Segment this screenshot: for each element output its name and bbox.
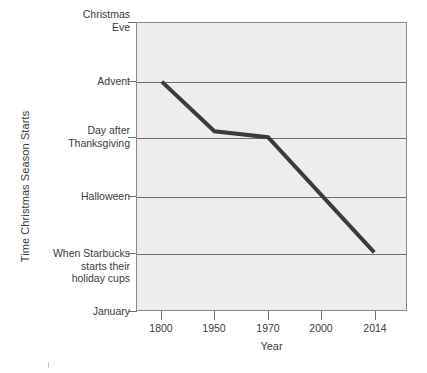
x-axis-tick-label: 1970 xyxy=(238,322,298,334)
scan-artifact-speck xyxy=(48,362,49,368)
y-axis-tick-label: Advent xyxy=(10,75,130,88)
x-axis-tick-label: 1950 xyxy=(184,322,244,334)
series-line-svg xyxy=(137,23,406,310)
y-axis-tick-label: January xyxy=(10,305,130,318)
plot-area xyxy=(136,22,407,311)
x-axis-tick-label: 2000 xyxy=(291,322,351,334)
series-line xyxy=(162,82,374,253)
y-axis-tick-label: Halloween xyxy=(10,190,130,203)
x-axis-tick-mark xyxy=(214,311,215,320)
x-axis-tick-mark xyxy=(161,311,162,320)
x-axis-tick-mark xyxy=(268,311,269,320)
y-axis-tick-label: Christmas Eve xyxy=(10,8,130,33)
y-axis-tick-mark xyxy=(128,311,137,312)
x-axis-tick-label: 2014 xyxy=(345,322,405,334)
x-axis-tick-label: 1800 xyxy=(131,322,191,334)
x-axis-title: Year xyxy=(136,340,407,352)
x-axis-tick-mark xyxy=(321,311,322,320)
line-chart: Time Christmas Season Starts Christmas E… xyxy=(0,0,427,373)
y-axis-tick-label: Day after Thanksgiving xyxy=(10,124,130,149)
y-axis-tick-label: When Starbucks starts their holiday cups xyxy=(10,247,130,285)
x-axis-tick-mark xyxy=(375,311,376,320)
